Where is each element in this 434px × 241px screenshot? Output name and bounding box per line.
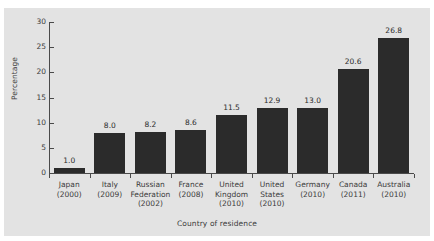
y-tick-label: 0 (20, 169, 46, 177)
category-label-line: (2010) (370, 190, 418, 200)
x-tick (130, 174, 131, 178)
y-tick (50, 22, 54, 23)
y-tick-label: 10 (20, 119, 46, 127)
x-tick (90, 174, 91, 178)
bar-value-label: 8.6 (171, 119, 211, 127)
bar-value-label: 11.5 (212, 104, 252, 112)
y-tick-label: 20 (20, 68, 46, 76)
y-tick (50, 98, 54, 99)
x-tick (414, 174, 415, 178)
bar-value-label: 8.0 (90, 122, 130, 130)
category-label-line: (2010) (248, 199, 296, 209)
x-tick (171, 174, 172, 178)
y-tick-label: 25 (20, 43, 46, 51)
y-axis-label: Percentage (10, 44, 19, 114)
bar[interactable] (216, 115, 247, 173)
bar-value-label: 8.2 (130, 121, 170, 129)
bar[interactable] (297, 108, 328, 173)
bar-value-label: 26.8 (374, 27, 414, 35)
bar-chart-figure: Percentage Country of residence 05101520… (0, 0, 434, 241)
x-category-label: Australia(2010) (370, 180, 418, 199)
category-label-line: (2002) (126, 199, 174, 209)
y-tick (50, 148, 54, 149)
y-tick-label: 5 (20, 144, 46, 152)
x-tick (292, 174, 293, 178)
x-axis-line (49, 173, 414, 174)
bar-value-label: 13.0 (293, 97, 333, 105)
bar[interactable] (135, 132, 166, 173)
bar[interactable] (378, 38, 409, 173)
x-tick (333, 174, 334, 178)
y-tick-label: 30 (20, 18, 46, 26)
y-tick (50, 173, 54, 174)
bar[interactable] (257, 108, 288, 173)
y-tick-label: 15 (20, 94, 46, 102)
x-tick (252, 174, 253, 178)
y-tick (50, 123, 54, 124)
bar-value-label: 1.0 (49, 157, 89, 165)
category-label-line: Australia (370, 180, 418, 190)
x-tick (211, 174, 212, 178)
x-tick (373, 174, 374, 178)
x-axis-label: Country of residence (0, 219, 434, 228)
y-tick (50, 47, 54, 48)
bar[interactable] (94, 133, 125, 173)
y-tick (50, 72, 54, 73)
bar[interactable] (338, 69, 369, 173)
bar[interactable] (54, 168, 85, 173)
bar-value-label: 12.9 (252, 97, 292, 105)
x-tick (49, 174, 50, 178)
bar[interactable] (175, 130, 206, 173)
bar-value-label: 20.6 (333, 58, 373, 66)
